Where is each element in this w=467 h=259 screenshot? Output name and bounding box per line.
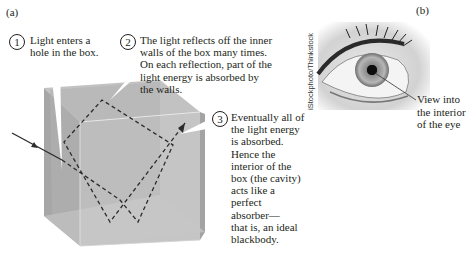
eye-photo: [0, 0, 467, 259]
eye-annotation: View into the interior of the eye: [417, 93, 466, 131]
